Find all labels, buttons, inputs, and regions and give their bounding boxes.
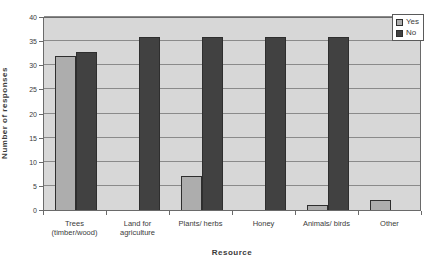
x-tick-mark-1 bbox=[106, 211, 107, 215]
y-tick-mark-15 bbox=[39, 138, 43, 139]
bar-no-0 bbox=[76, 52, 97, 210]
y-tick-label-15: 15 bbox=[7, 135, 37, 142]
x-tick-mark-5 bbox=[358, 211, 359, 215]
y-tick-label-0: 0 bbox=[7, 207, 37, 214]
no-series-swatch bbox=[396, 30, 403, 37]
bar-no-1 bbox=[139, 37, 160, 210]
y-tick-mark-10 bbox=[39, 162, 43, 163]
y-tick-label-30: 30 bbox=[7, 62, 37, 69]
y-tick-mark-30 bbox=[39, 65, 43, 66]
no-series-label: No bbox=[406, 29, 416, 37]
legend-item-yes: Yes bbox=[396, 18, 419, 26]
x-category-label-5: Other bbox=[350, 219, 429, 228]
gridline-40 bbox=[44, 16, 420, 17]
bar-group-1 bbox=[107, 18, 170, 210]
plot-area bbox=[43, 17, 421, 211]
x-tick-mark-6 bbox=[421, 211, 422, 215]
x-tick-mark-3 bbox=[232, 211, 233, 215]
y-tick-mark-20 bbox=[39, 114, 43, 115]
bar-yes-5 bbox=[370, 200, 391, 210]
bar-yes-2 bbox=[181, 176, 202, 210]
bar-group-5 bbox=[359, 18, 422, 210]
x-tick-mark-2 bbox=[169, 211, 170, 215]
legend: Yes No bbox=[392, 14, 424, 41]
y-tick-label-5: 5 bbox=[7, 183, 37, 190]
x-tick-mark-4 bbox=[295, 211, 296, 215]
y-tick-label-10: 10 bbox=[7, 159, 37, 166]
y-tick-mark-25 bbox=[39, 89, 43, 90]
x-tick-mark-0 bbox=[43, 211, 44, 215]
bar-group-2 bbox=[170, 18, 233, 210]
bar-no-2 bbox=[202, 37, 223, 210]
bar-no-3 bbox=[265, 37, 286, 210]
bar-group-0 bbox=[44, 18, 107, 210]
bar-yes-4 bbox=[307, 205, 328, 210]
yes-series-label: Yes bbox=[406, 18, 419, 26]
yes-series-swatch bbox=[396, 19, 403, 26]
x-axis-title: Resource bbox=[43, 248, 421, 257]
bar-group-3 bbox=[233, 18, 296, 210]
y-tick-label-20: 20 bbox=[7, 111, 37, 118]
y-tick-label-35: 35 bbox=[7, 38, 37, 45]
bar-group-4 bbox=[296, 18, 359, 210]
survey-bar-chart: Number of responses 0510152025303540 Tre… bbox=[0, 0, 436, 267]
y-tick-mark-35 bbox=[39, 41, 43, 42]
y-tick-mark-5 bbox=[39, 186, 43, 187]
y-tick-label-25: 25 bbox=[7, 86, 37, 93]
y-tick-label-40: 40 bbox=[7, 14, 37, 21]
y-tick-mark-40 bbox=[39, 17, 43, 18]
legend-item-no: No bbox=[396, 29, 419, 37]
bar-yes-0 bbox=[55, 56, 76, 210]
bar-no-4 bbox=[328, 37, 349, 210]
